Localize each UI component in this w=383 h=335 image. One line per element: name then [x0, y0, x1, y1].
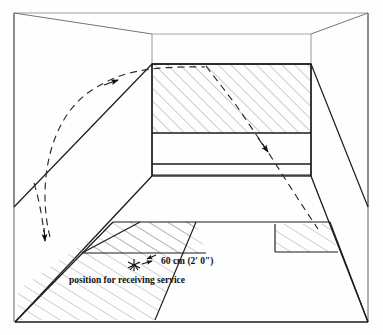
front-wall — [152, 64, 311, 176]
trajectory-descent — [34, 183, 44, 232]
trajectory-descent-arrowhead — [44, 228, 45, 241]
trajectory-outgoing-arrowhead — [258, 138, 268, 152]
ceiling — [14, 13, 368, 64]
trajectory-incoming-arrowhead — [104, 80, 118, 85]
position-label: position for receiving service — [69, 275, 185, 285]
service-box-right — [275, 224, 338, 252]
service-box-left-lower — [17, 290, 168, 320]
dimension-label: 60 cm (2′ 0″) — [161, 256, 214, 267]
squash-court-diagram: 60 cm (2′ 0″) position for receiving ser… — [0, 0, 383, 335]
diagram-canvas: 60 cm (2′ 0″) position for receiving ser… — [0, 0, 383, 335]
